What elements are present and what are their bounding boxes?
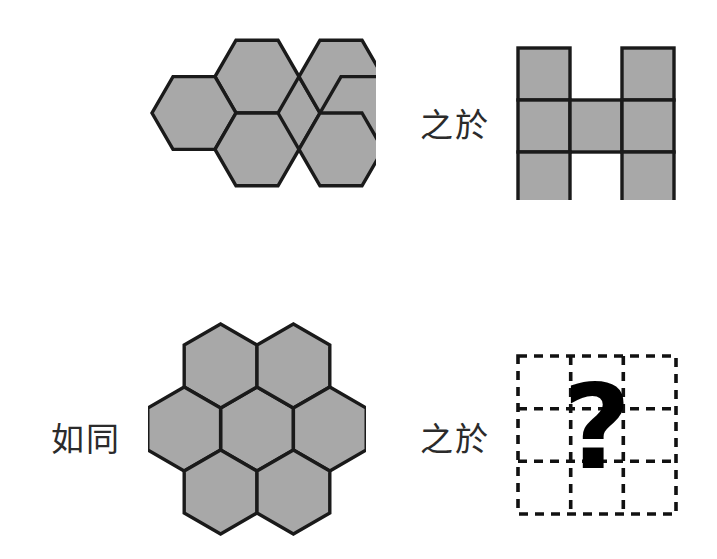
analogy-row-top: 之於	[0, 0, 717, 280]
hexagon-flower-pointy-top-icon	[148, 316, 366, 542]
dashed-grid-icon	[514, 352, 680, 518]
square-h-shape-icon	[512, 42, 684, 200]
square-r1c3	[622, 48, 674, 100]
hexagon-flower-flat-top-icon	[138, 2, 376, 224]
panel-term-c-hexagon-flower	[148, 316, 366, 542]
square-r3c1	[518, 152, 570, 200]
panel-term-a-hexagon-flower	[138, 2, 376, 224]
square-r2c2	[570, 100, 622, 152]
relation-label-as: 如同	[28, 406, 144, 472]
panel-term-b-square-h	[512, 42, 684, 200]
analogy-puzzle-figure: 之於 如同	[0, 0, 717, 559]
relation-label-is-to-bottom: 之於	[400, 406, 510, 472]
square-r2c1	[518, 100, 570, 152]
relation-label-is-to-top: 之於	[400, 92, 510, 158]
analogy-row-bottom: 如同	[0, 280, 717, 559]
square-r1c1	[518, 48, 570, 100]
panel-term-d-answer-placeholder[interactable]: ?	[514, 352, 680, 518]
square-r2c3	[622, 100, 674, 152]
dashed-grid-outer-border	[518, 356, 676, 514]
square-r3c3	[622, 152, 674, 200]
